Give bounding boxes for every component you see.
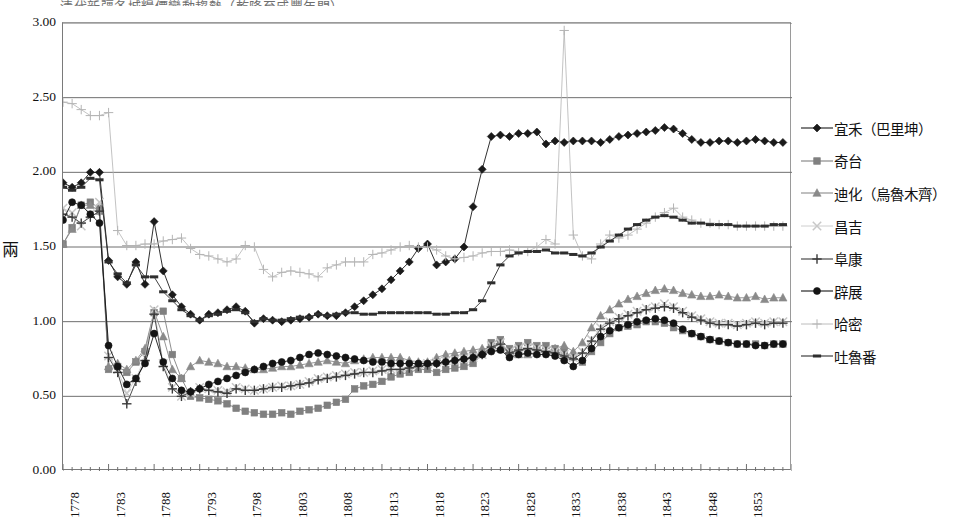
x-tick-label: 1808	[340, 492, 356, 518]
x-tick-label: 1833	[568, 492, 584, 518]
y-tick-label: 1.00	[10, 313, 56, 329]
legend-label: 迪化（烏魯木齊）	[834, 183, 946, 204]
diamond-icon	[800, 120, 834, 136]
x-tick-label: 1828	[523, 492, 539, 518]
x-tick-label: 1778	[67, 492, 83, 518]
x-tick-label: 1843	[659, 492, 675, 518]
series-tulufan	[63, 177, 787, 323]
cross-x-icon	[800, 218, 834, 234]
legend-item-fukang[interactable]: 阜康	[800, 242, 952, 275]
x-tick-label: 1813	[386, 492, 402, 518]
x-tick-label: 1798	[249, 492, 265, 518]
y-tick-label: 0.50	[10, 387, 56, 403]
y-axis-label: 兩	[2, 236, 19, 261]
x-tick-label: 1793	[204, 492, 220, 518]
legend-item-yihe[interactable]: 宜禾（巴里坤）	[800, 112, 952, 145]
x-axis-ticks: 1778178317881793179818031808181318181823…	[62, 474, 791, 523]
legend-item-pizhan[interactable]: 辟展	[800, 275, 952, 308]
x-tick-label: 1818	[432, 492, 448, 518]
legend-label: 昌吉	[834, 216, 862, 237]
square-icon	[800, 153, 834, 169]
x-tick-label: 1823	[477, 492, 493, 518]
legend-item-changji[interactable]: 昌吉	[800, 210, 952, 243]
y-axis-ticks: 0.000.501.001.502.002.503.00	[8, 0, 56, 523]
x-tick-label: 1853	[750, 492, 766, 518]
chart-title-clipped: 清代新疆各城糧價變動趨勢（乾隆至咸豐年間）	[60, 0, 760, 6]
plus-light-icon	[800, 316, 834, 332]
plot-area	[62, 22, 791, 470]
legend-label: 哈密	[834, 313, 862, 334]
y-tick-label: 2.00	[10, 163, 56, 179]
legend-label: 阜康	[834, 248, 862, 269]
y-tick-label: 0.00	[10, 462, 56, 478]
legend-label: 宜禾（巴里坤）	[834, 118, 932, 139]
chart-canvas	[63, 23, 792, 471]
legend-label: 奇台	[834, 150, 862, 171]
legend-item-hami[interactable]: 哈密	[800, 308, 952, 341]
legend-item-dihua[interactable]: 迪化（烏魯木齊）	[800, 177, 952, 210]
x-tick-label: 1788	[158, 492, 174, 518]
y-tick-label: 2.50	[10, 89, 56, 105]
x-tick-label: 1783	[113, 492, 129, 518]
x-tick-label: 1848	[705, 492, 721, 518]
legend-item-qitai[interactable]: 奇台	[800, 145, 952, 178]
triangle-icon	[800, 185, 834, 201]
legend-label: 吐魯番	[834, 346, 876, 367]
legend-item-tulufan[interactable]: 吐魯番	[800, 340, 952, 373]
legend-label: 辟展	[834, 281, 862, 302]
dash-icon	[800, 348, 834, 364]
plus-icon	[800, 251, 834, 267]
x-tick-label: 1838	[614, 492, 630, 518]
x-tick-label: 1803	[295, 492, 311, 518]
circle-icon	[800, 283, 834, 299]
chart-legend: 宜禾（巴里坤）奇台迪化（烏魯木齊）昌吉阜康辟展哈密吐魯番	[800, 112, 952, 373]
y-tick-label: 3.00	[10, 14, 56, 30]
